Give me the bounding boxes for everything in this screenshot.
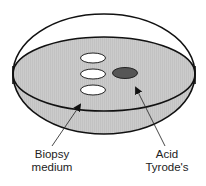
acid-tyrodes-droplet [113, 68, 138, 79]
biopsy-label-line2: medium [22, 161, 82, 174]
medium-layer [13, 37, 195, 134]
acid-tyrodes-label: Acid Tyrode's [137, 148, 197, 174]
biopsy-droplet-1 [81, 53, 106, 63]
acid-label-line2: Tyrode's [137, 161, 197, 174]
biopsy-medium-label: Biopsy medium [22, 148, 82, 174]
petri-dish-diagram: Biopsy medium Acid Tyrode's [0, 0, 206, 186]
biopsy-label-line1: Biopsy [22, 148, 82, 161]
biopsy-droplet-3 [81, 85, 106, 95]
biopsy-droplet-2 [81, 69, 106, 79]
acid-label-line1: Acid [137, 148, 197, 161]
